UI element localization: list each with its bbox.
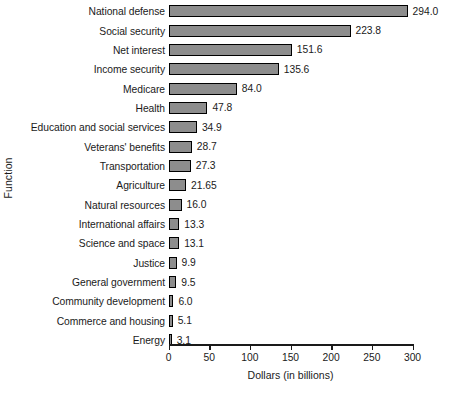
- category-label: Veterans' benefits: [84, 141, 165, 152]
- bar-and-value: 21.65: [169, 179, 217, 191]
- bar-and-value: 47.8: [169, 102, 233, 114]
- bar-value-label: 151.6: [297, 44, 323, 55]
- bar-and-value: 5.1: [169, 315, 192, 327]
- bar: [169, 63, 279, 75]
- bar-and-value: 84.0: [169, 83, 262, 95]
- bar-value-label: 294.0: [413, 6, 439, 17]
- bar: [169, 179, 187, 191]
- bar: [169, 315, 173, 327]
- bar: [169, 257, 177, 269]
- bar-chart: Function National defense294.0Social sec…: [0, 0, 453, 393]
- x-axis-tick-label: 250: [363, 352, 380, 363]
- category-label: Social security: [99, 25, 165, 36]
- bar: [169, 25, 351, 37]
- x-axis-tick-label: 300: [404, 352, 421, 363]
- x-axis-tick: [413, 344, 415, 350]
- bar-value-label: 9.5: [181, 277, 195, 288]
- bar-value-label: 47.8: [212, 102, 232, 113]
- x-axis-tick: [250, 344, 252, 350]
- bar-row: Social security223.8: [0, 21, 453, 40]
- bar-row: Transportation27.3: [0, 156, 453, 175]
- bar-and-value: 294.0: [169, 5, 439, 17]
- bar-and-value: 13.1: [169, 237, 204, 249]
- bar-value-label: 9.9: [182, 257, 196, 268]
- bar-row: International affairs13.3: [0, 214, 453, 233]
- bar-and-value: 13.3: [169, 218, 205, 230]
- bar-row: Science and space13.1: [0, 234, 453, 253]
- bar-value-label: 27.3: [196, 160, 216, 171]
- bar-and-value: 6.0: [169, 295, 193, 307]
- category-label: Medicare: [123, 83, 165, 94]
- bar-row: Veterans' benefits28.7: [0, 137, 453, 156]
- bar-and-value: 135.6: [169, 63, 310, 75]
- x-axis-tick: [291, 344, 293, 350]
- bar-value-label: 6.0: [178, 296, 192, 307]
- x-axis-tick: [372, 344, 374, 350]
- x-axis: 050100150200250300: [169, 344, 413, 345]
- bar: [169, 276, 177, 288]
- bar: [169, 199, 182, 211]
- bar-value-label: 34.9: [202, 122, 222, 133]
- bar-row: Medicare84.0: [0, 79, 453, 98]
- bar-and-value: 9.9: [169, 257, 196, 269]
- category-label: International affairs: [79, 219, 165, 230]
- category-label: Education and social services: [31, 122, 165, 133]
- bar-value-label: 84.0: [242, 83, 262, 94]
- bar-value-label: 135.6: [284, 64, 310, 75]
- bar-and-value: 223.8: [169, 25, 382, 37]
- bar: [169, 102, 208, 114]
- category-label: Health: [136, 102, 165, 113]
- bar-row: Income security135.6: [0, 60, 453, 79]
- bar-and-value: 28.7: [169, 141, 217, 153]
- x-axis-tick-label: 150: [282, 352, 299, 363]
- bar: [169, 237, 180, 249]
- category-label: National defense: [89, 6, 165, 17]
- bar-value-label: 13.1: [184, 238, 204, 249]
- bar-row: Community development6.0: [0, 292, 453, 311]
- category-label: Transportation: [100, 160, 165, 171]
- bar: [169, 121, 197, 133]
- bar: [169, 160, 191, 172]
- bar: [169, 141, 192, 153]
- x-axis-tick: [331, 344, 333, 350]
- x-axis-tick-label: 0: [166, 352, 172, 363]
- category-label: Science and space: [79, 238, 165, 249]
- bar-and-value: 16.0: [169, 199, 207, 211]
- bar-value-label: 13.3: [184, 219, 204, 230]
- category-label: Commerce and housing: [57, 315, 165, 326]
- bar-and-value: 151.6: [169, 44, 323, 56]
- bar-value-label: 16.0: [187, 199, 207, 210]
- x-axis-title: Dollars (in billions): [169, 369, 413, 381]
- bar: [169, 83, 237, 95]
- category-label: Energy: [133, 335, 165, 346]
- bar-value-label: 21.65: [191, 180, 217, 191]
- bar-row: Education and social services34.9: [0, 118, 453, 137]
- bar-value-label: 5.1: [178, 315, 192, 326]
- bar-and-value: 34.9: [169, 121, 222, 133]
- bar-row: Agriculture21.65: [0, 176, 453, 195]
- bar-row: Net interest151.6: [0, 40, 453, 59]
- bar-rows-container: National defense294.0Social security223.…: [0, 0, 453, 345]
- bar-and-value: 27.3: [169, 160, 216, 172]
- x-axis-tick-label: 200: [323, 352, 340, 363]
- bar-row: Natural resources16.0: [0, 195, 453, 214]
- bar: [169, 218, 180, 230]
- category-label: Agriculture: [116, 180, 165, 191]
- bar-row: Justice9.9: [0, 253, 453, 272]
- bar-value-label: 223.8: [356, 25, 382, 36]
- bar: [169, 295, 174, 307]
- bar-row: Energy3.1: [0, 330, 453, 349]
- bar: [169, 44, 292, 56]
- category-label: Income security: [94, 64, 165, 75]
- x-axis-tick-label: 50: [203, 352, 214, 363]
- bar: [169, 5, 408, 17]
- category-label: Net interest: [113, 44, 165, 55]
- bar-row: Commerce and housing5.1: [0, 311, 453, 330]
- bar-value-label: 28.7: [197, 141, 217, 152]
- category-label: Justice: [133, 257, 165, 268]
- x-axis-tick-label: 100: [241, 352, 258, 363]
- bar-and-value: 9.5: [169, 276, 196, 288]
- x-axis-tick: [209, 344, 211, 350]
- bar-row: General government9.5: [0, 272, 453, 291]
- bar-row: Health47.8: [0, 98, 453, 117]
